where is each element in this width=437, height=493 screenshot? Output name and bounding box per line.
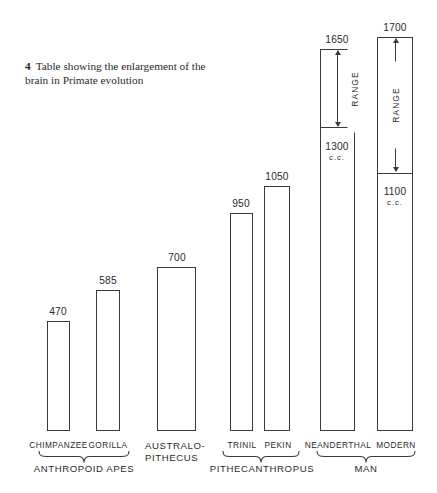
- range-label-modern: RANGE: [389, 62, 403, 149]
- range-divider-modern: [377, 173, 414, 174]
- value-pekin: 1050: [265, 171, 288, 182]
- value-label-modern-low: 1100 c.c.: [369, 176, 421, 219]
- group-label-pithecanthropus: PITHECANTHROPUS: [208, 463, 316, 475]
- species-label-modern: MODERN: [374, 440, 418, 450]
- value-chimpanzee: 470: [49, 306, 67, 317]
- unit-neanderthal-low: c.c.: [311, 153, 363, 164]
- value-gorilla: 585: [99, 275, 117, 286]
- bar-trinil: [230, 213, 253, 431]
- value-trinil: 950: [232, 198, 250, 209]
- bar-chimpanzee: [47, 321, 70, 431]
- range-arrow-neanderthal: [337, 51, 338, 126]
- value-label-neanderthal-low: 1300 c.c.: [311, 131, 363, 174]
- bar-australopithecus: [157, 267, 196, 431]
- species-label-trinil: TRINIL: [222, 440, 262, 450]
- range-label-neanderthal: RANGE: [348, 46, 362, 133]
- value-australopithecus: 700: [168, 252, 186, 263]
- species-label-gorilla: GORILLA: [85, 440, 131, 450]
- group-label-anthropoid-apes: ANTHROPOID APES: [20, 463, 148, 475]
- value-modern-low: 1100: [384, 186, 407, 197]
- figure-root: 4Table showing the enlargement of the br…: [0, 0, 437, 493]
- group-label-australopithecus: AUSTRALO- PITHECUS: [145, 440, 215, 463]
- value-modern-high: 1700: [383, 22, 406, 33]
- brace-pithecanthropus: [222, 450, 300, 463]
- chart-plot-area: 470 c.c. 585 c.c. 700 c.c. 950 c.c. 1050…: [0, 0, 437, 493]
- group-label-man: MAN: [330, 463, 402, 475]
- species-label-neanderthal: NEANDERTHAL: [304, 440, 372, 450]
- brace-anthropoid-apes: [38, 450, 130, 463]
- brace-man: [316, 450, 416, 463]
- species-label-pekin: PEKIN: [258, 440, 298, 450]
- value-neanderthal-high: 1650: [325, 34, 348, 45]
- unit-modern-low: c.c.: [369, 198, 421, 209]
- bar-pekin: [264, 186, 290, 431]
- value-neanderthal-low: 1300: [325, 141, 348, 152]
- bar-gorilla: [96, 290, 120, 431]
